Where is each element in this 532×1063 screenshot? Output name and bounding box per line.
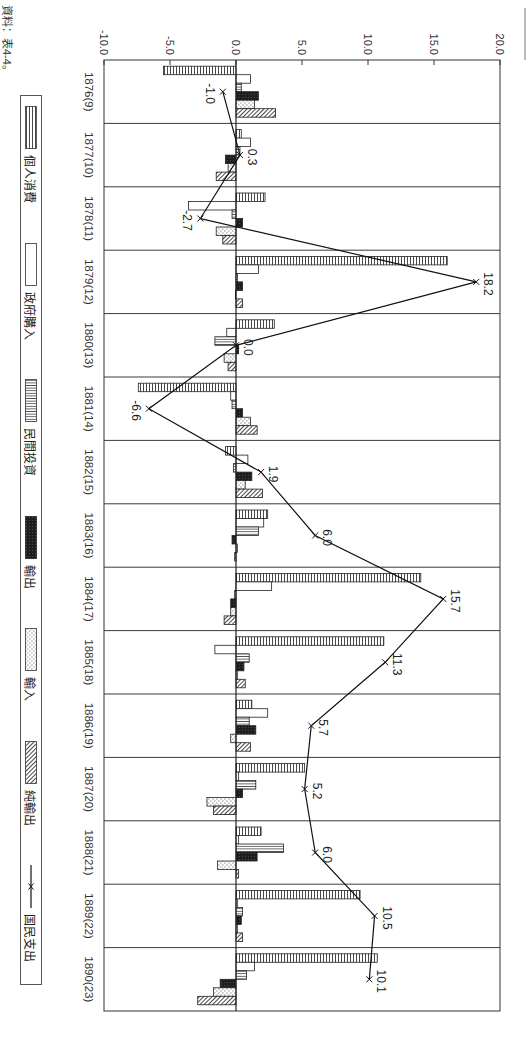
data-label: -2.7 — [180, 210, 194, 231]
value-tick-label: 5.0 — [296, 40, 308, 55]
bar-net-exports — [236, 933, 243, 942]
bar-investment — [236, 844, 284, 853]
category-label: 1879(12) — [83, 259, 95, 305]
x-marker-icon — [382, 659, 388, 665]
bar-imports — [231, 734, 236, 743]
bar-net-exports — [214, 806, 236, 815]
bar-government — [236, 519, 264, 528]
source-note: 資料：表4-4。 — [0, 5, 16, 76]
bar-consumption — [236, 256, 447, 265]
bar-exports — [236, 726, 256, 735]
bar-exports — [236, 219, 243, 228]
category-label: 1881(14) — [83, 386, 95, 432]
bar-imports — [214, 988, 236, 997]
bar-government — [236, 138, 251, 147]
bar-consumption — [236, 954, 377, 963]
bar-net-exports — [236, 489, 262, 498]
value-tick-label: 15.0 — [428, 34, 440, 55]
bar-consumption — [225, 447, 236, 456]
bar-imports — [207, 798, 236, 807]
bar-imports — [216, 227, 236, 236]
x-marker-icon — [258, 469, 264, 475]
bar-net-exports — [223, 236, 236, 245]
bar-government — [236, 75, 251, 84]
value-tick-label: 10.0 — [362, 34, 374, 55]
bar-imports — [236, 481, 245, 490]
bar-exports — [225, 155, 236, 164]
bar-exports — [236, 409, 243, 418]
value-tick-label: -10.0 — [98, 30, 110, 55]
plot-frame — [104, 60, 500, 1011]
bar-investment — [236, 527, 258, 536]
bar-line-chart: -10.0-5.00.05.010.015.020.01876(9)1877(1… — [0, 0, 532, 1063]
data-label: -6.6 — [129, 400, 143, 421]
national-expenditure-series: -1.00.3-2.718.20.0-6.61.96.015.711.35.75… — [129, 83, 495, 993]
bar-imports — [224, 354, 236, 363]
bar-exports — [220, 979, 236, 988]
bar-consumption — [236, 510, 268, 519]
bar-group — [218, 827, 284, 878]
bar-consumption — [236, 700, 252, 709]
x-marker-icon — [146, 406, 152, 412]
legend-label: 個人消費 — [23, 155, 40, 203]
bar-exports — [236, 853, 257, 862]
bar-net-exports — [236, 109, 276, 118]
category-label: 1887(20) — [83, 766, 95, 812]
legend-label: 国民支出 — [23, 914, 40, 962]
category-label: 1877(10) — [83, 132, 95, 178]
bar-investment — [236, 654, 249, 663]
category-label: 1886(19) — [83, 703, 95, 749]
legend-label: 民間投資 — [23, 428, 40, 476]
data-label: 0.3 — [245, 149, 259, 166]
legend-item-investment: 民間投資 — [23, 379, 40, 476]
legend-label: 純輸出 — [23, 790, 40, 826]
category-label: 1884(17) — [83, 576, 95, 622]
black-swatch-icon — [25, 516, 37, 559]
bar-investment — [236, 971, 247, 980]
bar-imports — [236, 100, 254, 109]
dots-swatch-icon — [25, 628, 37, 671]
bar-consumption — [236, 827, 261, 836]
bar-exports — [236, 92, 258, 101]
bar-investment — [236, 83, 241, 92]
bar-consumption — [138, 383, 236, 392]
bar-group — [215, 637, 384, 688]
category-label: 1885(18) — [83, 639, 95, 685]
bar-investment — [236, 907, 243, 916]
data-label: 18.2 — [481, 272, 495, 296]
bar-consumption — [236, 637, 384, 646]
bar-group — [225, 447, 262, 498]
bar-group — [198, 954, 378, 1005]
bar-consumption — [163, 66, 236, 75]
bar-government — [236, 962, 254, 971]
bar-government — [236, 265, 258, 274]
bar-group — [207, 764, 305, 815]
legend-item-imports: 輸入 — [23, 628, 40, 701]
legend-item-net-exports: 純輸出 — [23, 741, 40, 826]
bar-exports — [231, 599, 236, 608]
bar-imports — [236, 417, 251, 426]
category-label: 1882(15) — [83, 449, 95, 495]
bar-group — [232, 510, 268, 561]
category-separators — [104, 123, 500, 947]
bars — [138, 66, 447, 1005]
legend-item-government: 政府購入 — [23, 243, 40, 340]
data-label: 5.7 — [316, 719, 330, 736]
bar-imports — [231, 607, 236, 616]
legend-label: 輸出 — [23, 565, 40, 589]
bar-net-exports — [224, 616, 236, 625]
data-label: -1.0 — [203, 83, 217, 104]
data-label: 11.3 — [390, 653, 404, 676]
category-label: 1890(23) — [83, 956, 95, 1002]
bar-exports — [236, 662, 244, 671]
diagonal-hatch-swatch-icon — [25, 741, 37, 784]
legend-label: 政府購入 — [23, 292, 40, 340]
chart-legend: 個人消費 政府購入 民間投資 輸出 — [20, 95, 42, 985]
value-tick-label: 0.0 — [230, 40, 242, 55]
bar-consumption — [236, 130, 241, 139]
bar-consumption — [236, 193, 265, 202]
white-swatch-icon — [25, 243, 37, 286]
data-label: 1.9 — [266, 466, 280, 483]
data-label: 10.5 — [380, 906, 394, 930]
category-axis: 1876(9)1877(10)1878(11)1879(12)1880(13)1… — [83, 72, 95, 1003]
